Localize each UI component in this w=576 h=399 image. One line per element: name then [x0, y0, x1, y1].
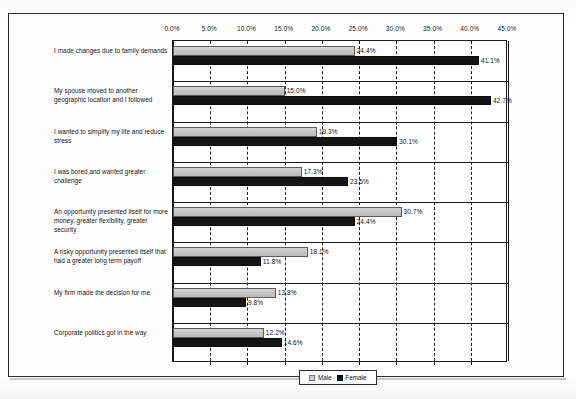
x-axis-tick — [285, 361, 286, 365]
bar-group: 18.1%11.8% — [173, 242, 508, 282]
x-tick-label: 25.0% — [349, 25, 368, 32]
bar-value-label: 23.5% — [350, 177, 369, 187]
bar-group: 12.2%14.6% — [173, 323, 508, 363]
category-label: An opportunity presented itself for more… — [54, 207, 170, 234]
x-tick-label: 45.0% — [498, 25, 517, 32]
chart-figure: 0.0%5.0%10.0%15.0%20.0%25.0%30.0%35.0%40… — [0, 0, 576, 399]
bar-group: 19.3%30.1% — [173, 122, 508, 162]
x-tick-label: 10.0% — [237, 25, 256, 32]
bar-female[interactable] — [173, 257, 261, 266]
category-label: Corporate politics got in the way — [54, 328, 170, 337]
x-tick-label: 15.0% — [274, 25, 293, 32]
category-label: I wanted to simplify my life and reduce … — [54, 127, 170, 145]
bar-value-label: 18.1% — [310, 247, 329, 257]
bar-female[interactable] — [173, 298, 246, 307]
bar-group: 24.4%41.1% — [173, 41, 508, 81]
bar-value-label: 17.3% — [304, 167, 323, 177]
legend-item-female[interactable]: Female — [337, 374, 367, 381]
bar-value-label: 24.4% — [357, 46, 376, 56]
bar-value-label: 11.8% — [263, 257, 281, 267]
bar-male[interactable] — [173, 86, 285, 96]
legend-label-male: Male — [318, 374, 332, 381]
category-label: I made changes due to family demands — [54, 46, 170, 55]
bar-group: 30.7%24.4% — [173, 202, 508, 242]
male-swatch-icon — [309, 375, 315, 381]
x-tick-label: 0.0% — [164, 25, 179, 32]
x-tick-label: 40.0% — [460, 25, 479, 32]
bar-value-label: 15.0% — [287, 86, 306, 96]
bar-female[interactable] — [173, 56, 479, 65]
legend-item-male[interactable]: Male — [309, 374, 331, 381]
x-tick-label: 30.0% — [386, 25, 405, 32]
bar-male[interactable] — [173, 207, 402, 217]
x-tick-label: 35.0% — [423, 25, 442, 32]
bar-group: 15.0%42.7% — [173, 81, 508, 121]
bar-male[interactable] — [173, 247, 308, 257]
gridline-45-0 — [508, 41, 509, 361]
bar-value-label: 14.6% — [284, 338, 303, 348]
chart-legend[interactable]: Male Female — [299, 370, 377, 385]
bar-value-label: 19.3% — [319, 127, 338, 137]
category-label: My spouse moved to another geographic lo… — [54, 86, 170, 104]
bar-female[interactable] — [173, 338, 282, 347]
x-axis-tick — [247, 361, 248, 365]
x-tick-label: 20.0% — [311, 25, 330, 32]
bar-female[interactable] — [173, 177, 348, 186]
x-axis-tick — [434, 361, 435, 365]
bar-group: 17.3%23.5% — [173, 162, 508, 202]
bar-male[interactable] — [173, 167, 302, 177]
x-tick-label: 5.0% — [202, 25, 217, 32]
x-axis-tick — [322, 361, 323, 365]
bar-female[interactable] — [173, 217, 355, 226]
bar-value-label: 13.8% — [278, 288, 297, 298]
bar-male[interactable] — [173, 127, 317, 137]
bar-male[interactable] — [173, 288, 276, 298]
x-axis-tick — [396, 361, 397, 365]
bar-value-label: 30.1% — [399, 137, 418, 147]
bar-value-label: 42.7% — [493, 96, 512, 106]
bar-value-label: 12.2% — [266, 328, 285, 338]
bar-value-label: 9.8% — [248, 298, 263, 308]
category-label: My firm made the decision for me — [54, 288, 170, 297]
plot-area: 24.4%41.1%15.0%42.7%19.3%30.1%17.3%23.5%… — [172, 40, 507, 362]
category-label: A risky opportunity presented itself tha… — [54, 247, 170, 265]
bar-value-label: 41.1% — [481, 56, 500, 66]
x-axis-tick — [210, 361, 211, 365]
bar-group: 13.8%9.8% — [173, 283, 508, 323]
bar-value-label: 24.4% — [357, 217, 376, 227]
category-label: I was bored and wanted greater challenge — [54, 167, 170, 185]
bar-female[interactable] — [173, 96, 491, 105]
bar-male[interactable] — [173, 46, 355, 56]
legend-label-female: Female — [345, 374, 366, 381]
bar-value-label: 30.7% — [404, 207, 423, 217]
female-swatch-icon — [337, 375, 343, 381]
bar-female[interactable] — [173, 137, 397, 146]
x-axis-tick — [359, 361, 360, 365]
bar-male[interactable] — [173, 328, 264, 338]
x-axis-tick — [471, 361, 472, 365]
